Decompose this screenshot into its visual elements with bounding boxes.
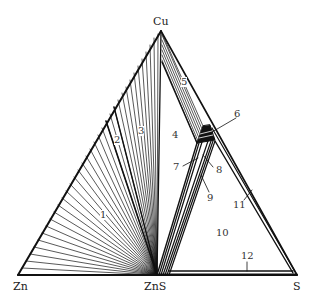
band-7-b bbox=[161, 142, 202, 275]
region-label-11: 11 bbox=[233, 200, 246, 210]
leader-6 bbox=[212, 118, 236, 132]
region-label-1: 1 bbox=[100, 210, 106, 220]
region-label-4: 4 bbox=[172, 130, 178, 140]
region-label-10: 10 bbox=[216, 228, 229, 238]
region-label-12: 12 bbox=[241, 251, 254, 261]
leader-9 bbox=[201, 175, 209, 192]
vertex-label-zn: Zn bbox=[13, 281, 28, 292]
region-label-6: 6 bbox=[234, 109, 240, 119]
phase-diagram bbox=[0, 0, 315, 302]
region-5-lower-boundary bbox=[162, 62, 197, 143]
region-label-3: 3 bbox=[138, 126, 144, 136]
vertex-label-cu: Cu bbox=[153, 16, 169, 27]
region-1-tielines bbox=[22, 107, 157, 275]
region-label-9: 9 bbox=[207, 193, 213, 203]
region-label-7: 7 bbox=[173, 162, 179, 172]
region-label-8: 8 bbox=[216, 165, 222, 175]
region-5-tielines bbox=[161, 31, 203, 143]
vertex-label-zns: ZnS bbox=[144, 281, 166, 292]
region-label-5: 5 bbox=[181, 77, 187, 87]
band-11 bbox=[215, 141, 293, 273]
region-label-2: 2 bbox=[114, 135, 120, 145]
band-8-b bbox=[165, 141, 211, 275]
vertex-label-s: S bbox=[293, 281, 301, 292]
band-11-b bbox=[212, 128, 297, 275]
band-8-a bbox=[163, 141, 208, 275]
